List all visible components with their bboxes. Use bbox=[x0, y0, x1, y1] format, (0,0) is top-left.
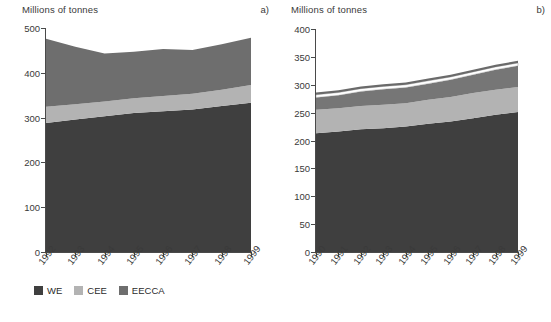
y-tick-mark bbox=[311, 29, 315, 30]
y-tick-mark bbox=[41, 207, 45, 208]
legend-swatch-icon bbox=[74, 286, 83, 295]
chart-b-axis-title: Millions of tonnes bbox=[291, 4, 367, 15]
y-tick-label: 500 bbox=[10, 23, 40, 34]
legend-swatch-icon bbox=[34, 286, 43, 295]
legend-swatch-icon bbox=[119, 286, 128, 295]
chart-a-plot-area bbox=[46, 28, 251, 252]
y-tick-label: 150 bbox=[278, 163, 310, 174]
chart-a-panel-tag: a) bbox=[261, 4, 269, 15]
y-tick-label: 200 bbox=[278, 135, 310, 146]
y-tick-label: 350 bbox=[278, 51, 310, 62]
chart-panel-a: Millions of tonnes a) 0100200300400500 1… bbox=[0, 0, 275, 322]
chart-b-plot-area bbox=[316, 29, 518, 252]
y-tick-mark bbox=[41, 73, 45, 74]
legend-item-label: CEE bbox=[87, 286, 107, 296]
chart-a-axis-title: Millions of tonnes bbox=[22, 4, 98, 15]
y-tick-mark bbox=[41, 162, 45, 163]
legend-item-cee[interactable]: CEE bbox=[74, 286, 107, 296]
legend-item-we[interactable]: WE bbox=[34, 286, 62, 296]
chart-b-panel-tag: b) bbox=[537, 4, 545, 15]
y-tick-mark bbox=[311, 168, 315, 169]
y-tick-mark bbox=[311, 113, 315, 114]
y-tick-label: 0 bbox=[10, 247, 40, 258]
y-tick-label: 300 bbox=[10, 112, 40, 123]
y-tick-mark bbox=[311, 85, 315, 86]
y-tick-mark bbox=[41, 28, 45, 29]
y-tick-label: 50 bbox=[278, 219, 310, 230]
y-tick-label: 100 bbox=[278, 191, 310, 202]
y-tick-mark bbox=[311, 224, 315, 225]
legend-row: WECEEEECCA bbox=[34, 286, 177, 296]
y-tick-label: 300 bbox=[278, 79, 310, 90]
legend-item-label: EECCA bbox=[132, 286, 165, 296]
y-tick-label: 100 bbox=[10, 202, 40, 213]
y-tick-label: 250 bbox=[278, 107, 310, 118]
legend-item-label: WE bbox=[47, 286, 62, 296]
legend-item-eecca[interactable]: EECCA bbox=[119, 286, 165, 296]
area-series-we bbox=[46, 103, 251, 252]
y-tick-label: 400 bbox=[278, 24, 310, 35]
y-tick-mark bbox=[311, 196, 315, 197]
chart-a-legend: WECEEEECCA bbox=[34, 286, 177, 301]
y-tick-label: 400 bbox=[10, 67, 40, 78]
chart-panel-b: Millions of tonnes b) 050100150200250300… bbox=[276, 0, 551, 322]
y-tick-label: 200 bbox=[10, 157, 40, 168]
y-tick-mark bbox=[41, 118, 45, 119]
y-tick-label: 0 bbox=[278, 247, 310, 258]
area-series-road bbox=[316, 112, 518, 252]
y-tick-mark bbox=[311, 141, 315, 142]
y-tick-mark bbox=[311, 57, 315, 58]
